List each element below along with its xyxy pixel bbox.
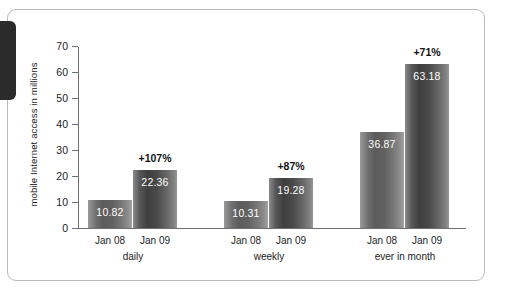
x-tick-daily-jan09: Jan 09 [127, 236, 183, 246]
y-tick-label-10: 10 [42, 197, 68, 208]
y-tick-label-30: 30 [42, 145, 68, 156]
y-tick-mark-70 [72, 46, 78, 47]
bar-ever-in-month-jan09[interactable]: 63.18 [405, 64, 449, 228]
y-tick-mark-40 [72, 124, 78, 125]
y-tick-label-0: 0 [42, 223, 68, 234]
bar-group-ever-in-month: 36.87 63.18 [360, 46, 450, 228]
bar-weekly-jan08[interactable]: 10.31 [224, 201, 268, 228]
bar-group-weekly: 10.31 19.28 [224, 46, 314, 228]
growth-label-ever-in-month: +71% [405, 47, 449, 58]
x-group-label-ever-in-month: ever in month [360, 252, 450, 262]
y-tick-label-60: 60 [42, 67, 68, 78]
bar-daily-jan09[interactable]: 22.36 [133, 170, 177, 228]
y-axis-line [78, 47, 79, 229]
y-tick-mark-20 [72, 176, 78, 177]
y-tick-label-70: 70 [42, 41, 68, 52]
bar-daily-jan08[interactable]: 10.82 [88, 200, 132, 228]
bar-weekly-jan09[interactable]: 19.28 [269, 178, 313, 228]
y-tick-mark-0 [72, 228, 78, 229]
y-axis-label: mobile Internet access in millions [28, 40, 39, 230]
x-group-label-weekly: weekly [224, 252, 314, 262]
y-tick-mark-60 [72, 72, 78, 73]
x-axis-line [78, 228, 466, 229]
y-tick-mark-50 [72, 98, 78, 99]
y-tick-label-20: 20 [42, 171, 68, 182]
y-tick-mark-10 [72, 202, 78, 203]
x-tick-weekly-jan09: Jan 09 [263, 236, 319, 246]
bar-chart: mobile Internet access in millions 70 60… [0, 0, 510, 298]
x-tick-ever-in-month-jan09: Jan 09 [399, 236, 455, 246]
bar-group-daily: 10.82 22.36 [88, 46, 178, 228]
y-tick-label-40: 40 [42, 119, 68, 130]
growth-label-daily: +107% [133, 153, 177, 164]
bar-ever-in-month-jan08[interactable]: 36.87 [360, 132, 404, 228]
x-group-label-daily: daily [88, 252, 178, 262]
y-tick-label-50: 50 [42, 93, 68, 104]
y-tick-mark-30 [72, 150, 78, 151]
growth-label-weekly: +87% [269, 161, 313, 172]
